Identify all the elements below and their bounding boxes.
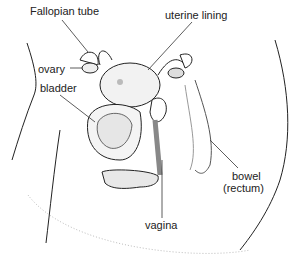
cervix — [150, 98, 166, 122]
leader-bladder — [60, 95, 95, 122]
pelvic-floor-dotted — [28, 195, 250, 253]
label-vagina: vagina — [145, 219, 177, 231]
uterus-shading — [117, 79, 123, 85]
body-outline-right — [240, 40, 288, 250]
fimbriae-right — [180, 54, 192, 68]
vaginal-canal — [155, 120, 160, 175]
body-outline-left-lower — [46, 130, 60, 243]
body-outline-left — [12, 43, 36, 160]
uterus — [100, 63, 160, 107]
label-uterine-lining: uterine lining — [165, 9, 227, 21]
label-bowel: bowel — [232, 170, 261, 182]
leader-fallopian-tube — [62, 20, 88, 52]
label-bladder: bladder — [40, 82, 77, 94]
ovary-left — [82, 63, 98, 73]
bowel — [195, 80, 211, 173]
ovary-right — [168, 68, 184, 78]
bowel-inner — [185, 85, 193, 170]
leader-bowel — [210, 140, 238, 168]
pubic-bone — [102, 170, 158, 188]
label-ovary: ovary — [38, 63, 65, 75]
label-fallopian-tube: Fallopian tube — [30, 5, 99, 17]
fallopian-tube-left — [99, 51, 112, 65]
label-rectum: (rectum) — [223, 182, 264, 194]
